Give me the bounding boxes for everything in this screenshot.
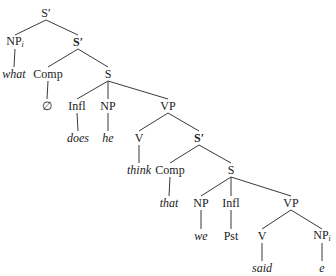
node-text: we [194,229,207,243]
tree-node-label: S [228,164,235,176]
tree-edge [231,177,291,196]
tree-node-label: VP [160,100,175,112]
tree-node-label: V [258,230,267,242]
tree-edge [47,81,48,99]
node-text: NP [100,99,115,113]
node-text: Pst [224,229,239,243]
node-text: S′ [73,35,83,49]
node-text: Infl [68,99,85,113]
node-index-subscript: i [22,40,24,49]
tree-edge [14,49,15,67]
tree-edge [78,49,108,67]
node-text: NP [313,228,328,242]
tree-edge [291,210,322,229]
node-text: that [160,196,179,210]
tree-node-label: S′ [41,7,50,19]
tree-edge [201,177,231,196]
tree-node-label: Comp [155,164,184,176]
node-text: NP [193,196,208,210]
tree-node-label: Infl [68,100,85,112]
node-text: said [252,261,272,275]
tree-edge [262,210,291,229]
tree-leaf-word: we [194,230,207,242]
tree-node-label: Pst [224,230,239,242]
node-text: does [67,131,89,145]
tree-edge [199,145,231,163]
tree-edge [46,20,78,35]
tree-edges [0,0,336,276]
node-text: ∅ [42,99,52,113]
tree-node-label: NP [193,197,208,209]
tree-leaf-word: does [67,132,89,144]
node-text: VP [160,99,175,113]
tree-node-label: S′ [73,36,83,48]
tree-node-label: NP [100,100,115,112]
node-text: S′ [41,6,50,20]
tree-edge [169,177,170,196]
node-text: think [127,163,151,177]
tree-edge [168,113,199,131]
node-text: e [319,261,324,275]
node-text: he [102,131,113,145]
tree-node-label: S [105,68,112,80]
tree-node-label: Comp [33,68,62,80]
tree-leaf-word: think [127,164,151,176]
tree-leaf-word: what [2,68,25,80]
tree-node-label: NPi [6,35,24,49]
tree-leaf-word: that [160,197,179,209]
tree-node-label: S′ [194,132,204,144]
node-text: Comp [155,163,184,177]
node-text: V [135,131,144,145]
tree-node-label: NPi [313,229,331,243]
node-text: VP [283,196,298,210]
tree-edge [170,145,199,163]
tree-edge [15,20,46,35]
tree-leaf-word: e [319,262,324,274]
node-text: Comp [33,67,62,81]
tree-edge [48,49,78,67]
tree-node-label: V [135,132,144,144]
tree-node-label: Infl [222,197,239,209]
node-text: S′ [194,131,204,145]
tree-edge [77,113,78,131]
tree-node-label: VP [283,197,298,209]
tree-edge [77,81,108,99]
tree-edge [108,81,168,99]
tree-leaf-word: he [102,132,113,144]
node-text: V [258,229,267,243]
node-text: NP [6,34,21,48]
node-text: what [2,67,25,81]
tree-leaf-word: said [252,262,272,274]
node-text: Infl [222,196,239,210]
tree-edge [139,113,168,131]
node-text: S [228,163,235,177]
node-text: S [105,67,112,81]
tree-node-label: ∅ [42,100,52,112]
node-index-subscript: i [329,234,331,243]
